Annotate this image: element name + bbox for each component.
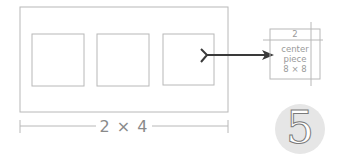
dimension-label: 2 × 4 xyxy=(96,117,152,137)
center-piece-line1: center xyxy=(272,44,318,54)
opening-left xyxy=(32,34,84,86)
arrow-icon xyxy=(201,49,274,62)
opening-middle xyxy=(97,34,149,86)
center-piece-line2: piece xyxy=(272,54,318,64)
center-piece-line3: 8 × 8 xyxy=(272,64,318,74)
outer-board xyxy=(20,7,228,112)
opening-right xyxy=(163,34,214,85)
center-piece-top-label: 2 xyxy=(272,29,318,39)
step-number: 5 xyxy=(275,101,325,155)
